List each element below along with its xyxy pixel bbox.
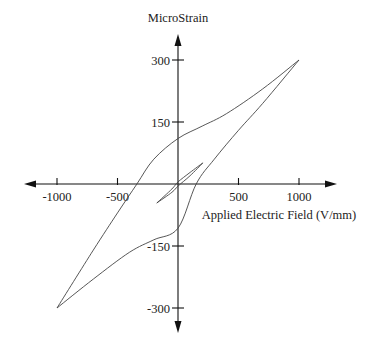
x-tick-label: 500 — [229, 190, 248, 204]
y-axis-down-arrow-icon — [175, 321, 182, 333]
x-tick-label: 1000 — [287, 190, 312, 204]
x-tick-label: -500 — [106, 190, 129, 204]
y-axis-label: MicroStrain — [148, 11, 209, 25]
minor-loop-upper-curve — [157, 163, 203, 203]
x-ticks: -1000-5005001000 — [42, 178, 311, 204]
x-axis-label: Applied Electric Field (V/mm) — [202, 208, 356, 222]
y-tick-label: 150 — [151, 116, 170, 130]
y-tick-label: 300 — [151, 54, 170, 68]
x-axis-left-arrow-icon — [24, 181, 36, 188]
x-tick-label: -1000 — [42, 190, 71, 204]
y-axis-up-arrow-icon — [175, 34, 182, 46]
hysteresis-chart: -1000-5005001000 300150-150-300 MicroStr… — [0, 0, 375, 350]
y-tick-label: -300 — [147, 302, 170, 316]
x-axis-right-arrow-icon — [325, 181, 337, 188]
